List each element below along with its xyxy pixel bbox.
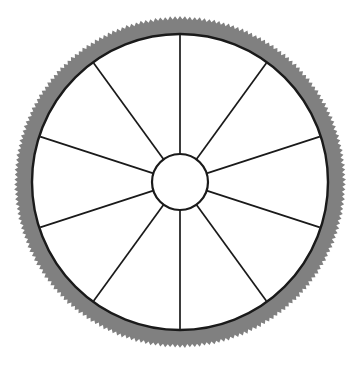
- wheel-figure: [0, 0, 359, 365]
- wheel-diagram: [0, 0, 359, 365]
- hub: [152, 154, 208, 210]
